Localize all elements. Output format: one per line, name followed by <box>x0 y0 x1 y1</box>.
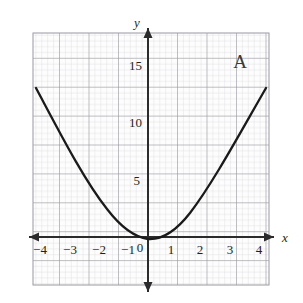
y-tick-5: 5 <box>134 173 141 188</box>
graph-identifier-label: A <box>233 51 247 72</box>
y-tick-10: 10 <box>129 115 142 130</box>
x-tick--4: −4 <box>33 242 47 257</box>
x-axis-label: x <box>281 230 288 245</box>
x-tick-3: 3 <box>227 242 234 257</box>
x-tick--3: −3 <box>63 242 77 257</box>
x-tick-4: 4 <box>256 242 263 257</box>
y-tick-15: 15 <box>129 58 142 73</box>
x-tick--1: −1 <box>121 242 135 257</box>
graph-figure: −4 −3 −2 −1 0 1 2 3 4 5 10 15 y x A <box>0 0 303 303</box>
x-tick--2: −2 <box>92 242 106 257</box>
x-tick-1: 1 <box>168 242 175 257</box>
x-tick-2: 2 <box>197 242 204 257</box>
y-axis-label: y <box>132 15 140 30</box>
parabola-graph-svg: −4 −3 −2 −1 0 1 2 3 4 5 10 15 y x A <box>0 0 303 303</box>
x-tick-0: 0 <box>137 240 144 255</box>
